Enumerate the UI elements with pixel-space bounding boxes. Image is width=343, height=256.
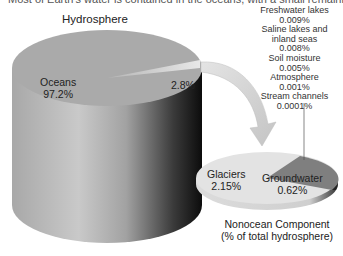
minor-value: 0.0001%: [246, 102, 343, 112]
minor-components-list: Freshwater lakes 0.009% Saline lakes and…: [246, 6, 343, 112]
glaciers-label: Glaciers 2.15%: [207, 168, 246, 192]
ocean-cylinder: [12, 30, 202, 243]
nonocean-value: 2.8%: [171, 79, 195, 91]
groundwater-label: Groundwater 0.62%: [262, 172, 323, 196]
nonocean-caption: Nonocean Component (% of total hydrosphe…: [212, 218, 342, 242]
ocean-label: Oceans 97.2%: [40, 76, 76, 100]
